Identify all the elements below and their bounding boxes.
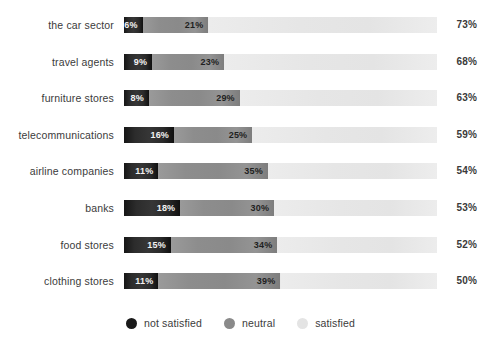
category-label: clothing stores <box>0 270 114 292</box>
category-label: furniture stores <box>0 87 114 109</box>
chart-row: telecommunications16%25%59% <box>0 124 481 146</box>
satisfied-value-label: 54% <box>441 160 477 182</box>
bar-track: 11%39% <box>124 273 437 289</box>
bar-segment-satisfied <box>268 163 437 179</box>
bar-segment-not-satisfied: 11% <box>124 163 158 179</box>
segment-value-label: 15% <box>147 237 166 253</box>
bar-segment-neutral: 21% <box>143 17 209 33</box>
segment-value-label: 34% <box>254 237 273 253</box>
bar-segment-not-satisfied: 9% <box>124 54 152 70</box>
segment-value-label: 23% <box>201 54 220 70</box>
segment-value-label: 29% <box>216 90 235 106</box>
legend-label: satisfied <box>315 317 355 329</box>
category-label: banks <box>0 197 114 219</box>
chart-row: furniture stores8%29%63% <box>0 87 481 109</box>
bar-segment-not-satisfied: 16% <box>124 127 174 143</box>
bar-segment-neutral: 34% <box>171 237 277 253</box>
segment-value-label: 25% <box>229 127 248 143</box>
segment-value-label: 8% <box>131 90 144 106</box>
chart-row: clothing stores11%39%50% <box>0 270 481 292</box>
bar-segment-satisfied <box>277 237 437 253</box>
legend-swatch-icon <box>126 318 137 329</box>
bar-segment-not-satisfied: 18% <box>124 200 180 216</box>
bar-segment-satisfied <box>224 54 437 70</box>
satisfied-value-label: 52% <box>441 234 477 256</box>
bar-segment-neutral: 35% <box>158 163 268 179</box>
legend-item: satisfied <box>297 317 355 329</box>
segment-value-label: 39% <box>257 273 276 289</box>
chart-legend: not satisfiedneutralsatisfied <box>0 312 481 334</box>
chart-row: food stores15%34%52% <box>0 234 481 256</box>
satisfaction-stacked-bar-chart: the car sector6%21%73%travel agents9%23%… <box>0 0 481 347</box>
segment-value-label: 9% <box>134 54 147 70</box>
category-label: airline companies <box>0 160 114 182</box>
bar-segment-not-satisfied: 6% <box>124 17 143 33</box>
bar-track: 18%30% <box>124 200 437 216</box>
bar-segment-neutral: 30% <box>180 200 274 216</box>
bar-track: 6%21% <box>124 17 437 33</box>
segment-value-label: 30% <box>251 200 270 216</box>
chart-row: banks18%30%53% <box>0 197 481 219</box>
chart-row: airline companies11%35%54% <box>0 160 481 182</box>
segment-value-label: 21% <box>185 17 204 33</box>
category-label: food stores <box>0 234 114 256</box>
bar-segment-satisfied <box>281 273 438 289</box>
bar-segment-neutral: 39% <box>158 273 280 289</box>
legend-swatch-icon <box>297 318 308 329</box>
segment-value-label: 11% <box>135 163 153 179</box>
bar-segment-satisfied <box>209 17 437 33</box>
chart-row: the car sector6%21%73% <box>0 14 481 36</box>
category-label: travel agents <box>0 51 114 73</box>
segment-value-label: 11% <box>135 273 153 289</box>
satisfied-value-label: 73% <box>441 14 477 36</box>
bar-segment-not-satisfied: 15% <box>124 237 171 253</box>
bar-track: 11%35% <box>124 163 437 179</box>
satisfied-value-label: 50% <box>441 270 477 292</box>
segment-value-label: 18% <box>157 200 176 216</box>
legend-item: neutral <box>224 317 275 329</box>
bar-segment-satisfied <box>274 200 437 216</box>
segment-value-label: 35% <box>244 163 263 179</box>
segment-value-label: 16% <box>150 127 169 143</box>
satisfied-value-label: 63% <box>441 87 477 109</box>
bar-track: 8%29% <box>124 90 437 106</box>
bar-track: 15%34% <box>124 237 437 253</box>
legend-label: neutral <box>242 317 275 329</box>
bar-segment-neutral: 23% <box>152 54 224 70</box>
bar-track: 9%23% <box>124 54 437 70</box>
segment-value-label: 6% <box>124 17 137 33</box>
bar-segment-satisfied <box>252 127 437 143</box>
legend-item: not satisfied <box>126 317 202 329</box>
legend-label: not satisfied <box>144 317 202 329</box>
legend-swatch-icon <box>224 318 235 329</box>
bar-segment-not-satisfied: 8% <box>124 90 149 106</box>
category-label: telecommunications <box>0 124 114 146</box>
category-label: the car sector <box>0 14 114 36</box>
bar-segment-not-satisfied: 11% <box>124 273 158 289</box>
bar-segment-satisfied <box>240 90 437 106</box>
satisfied-value-label: 59% <box>441 124 477 146</box>
bar-track: 16%25% <box>124 127 437 143</box>
satisfied-value-label: 68% <box>441 51 477 73</box>
bar-segment-neutral: 29% <box>149 90 240 106</box>
bar-segment-neutral: 25% <box>174 127 252 143</box>
satisfied-value-label: 53% <box>441 197 477 219</box>
chart-row: travel agents9%23%68% <box>0 51 481 73</box>
